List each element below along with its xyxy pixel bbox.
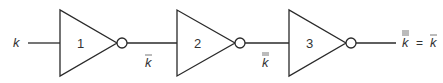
signal-label-not-not-k: k <box>262 53 270 70</box>
gate-2-number: 2 <box>194 36 201 51</box>
signal-text: k <box>262 55 270 70</box>
gate-3-number: 3 <box>306 36 313 51</box>
inverter-bubble-2 <box>235 38 245 48</box>
inverter-bubble-1 <box>117 38 127 48</box>
signal-label-not-k: k <box>145 55 153 70</box>
equals-sign: = <box>416 36 423 50</box>
gate-1-number: 1 <box>77 36 84 51</box>
not-gate-1 <box>60 10 117 76</box>
inverter-chain-diagram: k 1 k 2 k 3 k = k <box>0 0 443 83</box>
not-gate-3 <box>289 10 346 76</box>
output-label: k = k <box>402 31 438 50</box>
input-label-k: k <box>13 35 21 50</box>
signal-text: k <box>402 35 410 50</box>
inverter-bubble-3 <box>346 38 356 48</box>
not-gate-2 <box>177 10 235 76</box>
signal-text: k <box>145 55 153 70</box>
simplified-signal-text: k <box>430 35 438 50</box>
